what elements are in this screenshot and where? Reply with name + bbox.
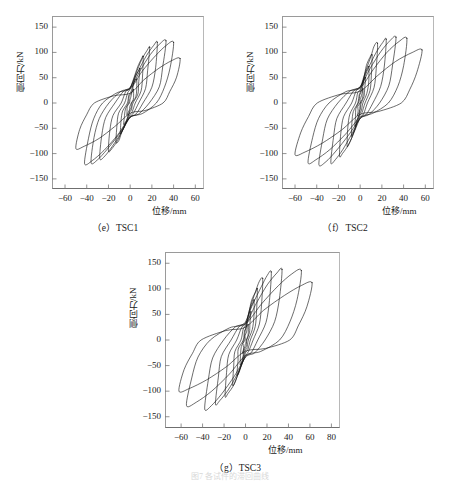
chart-tsc3-plot-area [165, 252, 340, 428]
chart-tsc2-ytick-0: 150 [240, 21, 278, 31]
chart-tsc2-ytick-2: 50 [240, 72, 278, 82]
chart-tsc3-x-axis-label: 位移/mm [268, 443, 303, 456]
chart-tsc2-plot-area [282, 16, 434, 189]
hysteresis-loop-9 [76, 58, 180, 150]
chart-tsc1-ytick-6: −150 [10, 173, 48, 183]
hysteresis-loop-2 [124, 79, 137, 125]
chart-tsc2-ytick-5: −100 [240, 148, 278, 158]
chart-tsc2-ytick-1: 100 [240, 46, 278, 56]
chart-tsc1-x-axis-label: 位移/mm [152, 204, 187, 217]
chart-tsc2-xtick-6: 60 [410, 193, 440, 203]
chart-tsc2-y-axis-label: 侧向力/kN [243, 26, 256, 92]
chart-tsc3: 侧向力/kN 位移/mm （g）TSC3 150100500−50−100−15… [115, 238, 360, 481]
chart-tsc3-ytick-6: −150 [123, 411, 161, 421]
chart-tsc1-ytick-2: 50 [10, 72, 48, 82]
hysteresis-loop-9 [179, 282, 312, 393]
chart-tsc1-ytick-0: 150 [10, 21, 48, 31]
chart-tsc1: 侧向力/kN 位移/mm （e）TSC1 150100500−50−100−15… [0, 0, 230, 235]
chart-tsc3-ytick-5: −100 [123, 385, 161, 395]
chart-tsc1-ytick-3: 0 [10, 97, 48, 107]
chart-tsc1-plot-area [52, 16, 204, 189]
chart-tsc2-curves [282, 16, 434, 189]
chart-tsc2-ytick-4: −50 [240, 122, 278, 132]
figure-caption: 图7 各试件的滞回曲线 [0, 470, 460, 481]
chart-tsc3-ytick-0: 150 [123, 257, 161, 267]
chart-tsc1-ytick-4: −50 [10, 122, 48, 132]
chart-tsc3-ytick-1: 100 [123, 283, 161, 293]
chart-tsc2-caption: （f）TSC2 [230, 220, 460, 234]
chart-tsc3-ytick-4: −50 [123, 360, 161, 370]
hysteresis-loop-8 [308, 37, 407, 164]
chart-tsc3-xtick-7: 80 [316, 432, 346, 442]
chart-tsc1-caption: （e）TSC1 [0, 220, 230, 234]
chart-tsc2: 侧向力/kN 位移/mm （f）TSC2 150100500−50−100−15… [230, 0, 460, 235]
chart-tsc2-ytick-6: −150 [240, 173, 278, 183]
chart-tsc3-ytick-2: 50 [123, 308, 161, 318]
hysteresis-loop-8 [85, 41, 174, 165]
chart-tsc2-ytick-3: 0 [240, 97, 278, 107]
chart-tsc1-ytick-5: −100 [10, 148, 48, 158]
chart-tsc3-curves [165, 252, 340, 428]
chart-tsc2-x-axis-label: 位移/mm [382, 204, 417, 217]
chart-tsc1-ytick-1: 100 [10, 46, 48, 56]
chart-tsc3-ytick-3: 0 [123, 334, 161, 344]
chart-tsc1-curves [52, 16, 204, 189]
chart-tsc1-xtick-6: 60 [180, 193, 210, 203]
hysteresis-loop-6 [215, 271, 271, 406]
chart-tsc1-y-axis-label: 侧向力/kN [13, 26, 26, 92]
